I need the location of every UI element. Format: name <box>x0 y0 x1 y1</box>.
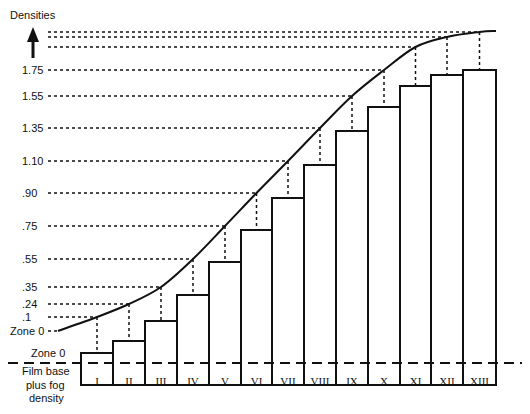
zone-numeral: XII <box>439 375 455 387</box>
density-tick-label: .24 <box>22 298 37 310</box>
bar-bottom-mask <box>75 386 505 396</box>
zone-bar <box>304 165 336 385</box>
zone-numeral: IV <box>187 375 199 387</box>
zone-numeral: I <box>95 375 99 387</box>
density-tick-label: .35 <box>22 281 37 293</box>
zone-bar <box>272 198 304 385</box>
zone-numeral: II <box>125 375 133 387</box>
density-tick-label: 1.35 <box>22 122 43 134</box>
zone-numeral: III <box>156 375 167 387</box>
film-base-label: Film base <box>22 365 70 377</box>
density-tick-label: .1 <box>22 311 31 323</box>
zone-numeral: V <box>221 375 229 387</box>
zone-bar <box>400 86 431 385</box>
densities-axis-arrow <box>27 27 39 58</box>
zone-bar <box>177 295 209 385</box>
zone-numeral: X <box>380 375 388 387</box>
density-label: density <box>29 392 64 404</box>
zone-bar <box>463 70 496 385</box>
density-tick-label: 1.10 <box>22 155 43 167</box>
zone-numeral: VIII <box>311 375 330 387</box>
zone-numeral: XI <box>410 375 422 387</box>
plus-fog-label: plus fog <box>26 379 65 391</box>
density-tick-label: 1.75 <box>22 64 43 76</box>
zone-numeral: IX <box>346 375 358 387</box>
zone-bar <box>431 75 463 385</box>
zone-numeral: XIII <box>470 375 489 387</box>
density-tick-label: .90 <box>22 187 37 199</box>
zone-bar <box>209 262 241 385</box>
densities-label: Densities <box>10 9 56 21</box>
zone-bar <box>241 230 272 385</box>
density-labels: 1.751.551.351.10.90.75.55.35.24.1Zone 0 <box>10 64 44 337</box>
zone-bars <box>75 70 505 396</box>
zone-bar <box>368 107 400 385</box>
zone-bar <box>336 131 368 385</box>
density-tick-label: .75 <box>22 220 37 232</box>
density-tick-label: Zone 0 <box>10 325 44 337</box>
zone-density-diagram: Densities 1.751.551.351.10.90.75.55.35.2… <box>0 0 530 414</box>
zone-numeral: VII <box>280 375 296 387</box>
density-tick-label: 1.55 <box>22 90 43 102</box>
density-tick-label: .55 <box>22 253 37 265</box>
base-zone0-label: Zone 0 <box>31 347 65 359</box>
zone-numeral: VI <box>251 375 263 387</box>
